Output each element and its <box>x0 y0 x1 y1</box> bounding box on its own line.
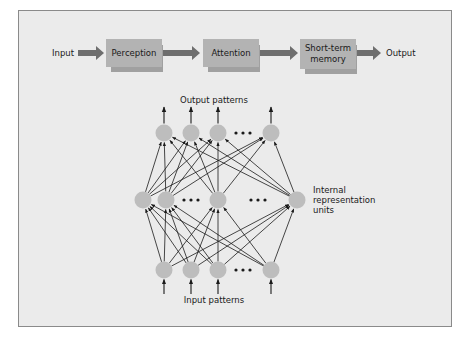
hidden-label-line1: Internal <box>313 185 346 195</box>
ellipsis-dot <box>248 268 251 271</box>
arrow-attention-to-stm <box>260 46 298 60</box>
diagram-canvas: Input Perception Attention Short-term me… <box>0 0 466 350</box>
ellipsis-dot <box>241 131 244 134</box>
stage-stm-label-line1: Short-term <box>305 43 351 53</box>
connection-edge <box>169 208 212 264</box>
output-patterns-label: Output patterns <box>180 95 248 105</box>
output-node <box>183 125 200 142</box>
hidden-node <box>289 192 306 209</box>
arrow-input-to-perception <box>78 46 104 60</box>
output-node <box>210 125 227 142</box>
stage-stm-label-line2: memory <box>310 54 346 64</box>
connection-edge <box>225 139 290 194</box>
connection-edge <box>274 142 293 192</box>
connection-edge <box>274 209 294 262</box>
ellipsis-dot <box>189 198 192 201</box>
connection-edge <box>194 209 215 262</box>
ellipsis-dot <box>241 268 244 271</box>
arrow-perception-to-attention <box>163 46 200 60</box>
hidden-node <box>210 192 227 209</box>
stage-perception: Perception <box>106 39 163 72</box>
hidden-node <box>158 192 175 209</box>
network-nodes <box>135 125 306 279</box>
arrow-stm-to-output <box>357 46 381 60</box>
output-node <box>156 125 173 142</box>
pipeline-output-label: Output <box>386 48 416 58</box>
ellipsis-dot <box>263 198 266 201</box>
neural-network: Output patterns Internal representation … <box>135 95 376 305</box>
connection-edge <box>172 204 289 266</box>
connection-edge <box>164 142 165 191</box>
stage-short-term-memory: Short-term memory <box>300 39 357 74</box>
input-node <box>210 262 227 279</box>
input-node <box>183 262 200 279</box>
connection-edge <box>151 137 263 196</box>
stage-perception-label: Perception <box>112 48 157 58</box>
connection-edge <box>224 206 290 264</box>
ellipsis-dot <box>256 198 259 201</box>
ellipsis-dot <box>234 268 237 271</box>
pipeline-input-label: Input <box>52 48 75 58</box>
hidden-label-line2: representation <box>313 195 375 205</box>
connection-edge <box>146 142 162 192</box>
ellipsis-dot <box>249 198 252 201</box>
stage-attention: Attention <box>203 39 260 72</box>
ellipsis-dot <box>234 131 237 134</box>
ellipsis-dot <box>248 131 251 134</box>
input-node <box>156 262 173 279</box>
ellipsis-dot <box>182 198 185 201</box>
ellipsis-dot <box>196 198 199 201</box>
connection-edge <box>146 209 162 262</box>
connection-edge <box>174 205 264 265</box>
connection-edge <box>164 209 165 261</box>
hidden-label-line3: units <box>313 205 334 215</box>
stage-attention-label: Attention <box>211 48 250 58</box>
connection-edge <box>195 142 215 192</box>
pipeline: Input Perception Attention Short-term me… <box>52 39 416 74</box>
hidden-node <box>135 192 152 209</box>
connection-edge <box>198 205 289 265</box>
output-node <box>263 125 280 142</box>
input-patterns-label: Input patterns <box>184 295 245 305</box>
connection-edge <box>172 137 289 196</box>
input-node <box>263 262 280 279</box>
